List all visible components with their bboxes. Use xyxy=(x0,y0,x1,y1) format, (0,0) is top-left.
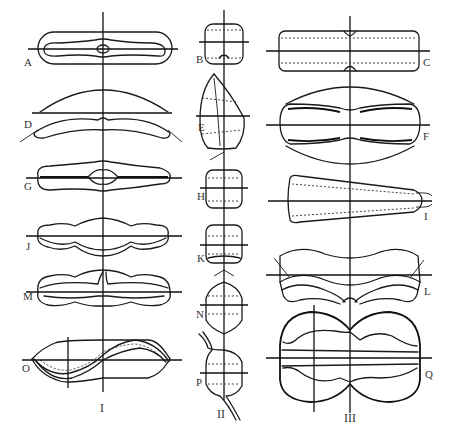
label-f: F xyxy=(423,130,429,142)
figure-e-mid xyxy=(214,78,220,146)
numeral-column-2: II xyxy=(217,407,225,421)
figure-o-sigmoid-1 xyxy=(34,340,168,374)
figure-d-arc xyxy=(40,90,168,112)
label-j: J xyxy=(26,240,31,252)
figure-e xyxy=(196,74,250,149)
label-a: A xyxy=(24,56,32,68)
figure-i-girdle xyxy=(292,184,414,216)
label-d: D xyxy=(24,118,32,130)
figure-n-connector-left xyxy=(214,270,224,276)
label-l: L xyxy=(424,285,431,297)
figure-d xyxy=(20,90,182,142)
figure-f xyxy=(266,87,430,164)
label-h: H xyxy=(197,190,205,202)
numeral-column-1: I xyxy=(100,401,104,415)
label-n: N xyxy=(196,308,204,320)
figure-n-connector-right xyxy=(224,270,234,276)
diatom-diagram: A D G J M O B E H K N P C F I L Q I II I… xyxy=(0,0,449,434)
figure-h-connector xyxy=(210,152,224,160)
figure-l xyxy=(266,249,432,304)
figure-i-outline xyxy=(288,175,422,222)
figure-g xyxy=(26,161,182,191)
figure-o-sigmoid-dotted xyxy=(40,344,164,370)
label-g: G xyxy=(24,180,32,192)
figure-a-outline xyxy=(38,32,172,64)
figure-d-body xyxy=(34,118,170,138)
label-p: P xyxy=(196,376,202,388)
numeral-column-3: III xyxy=(344,411,356,425)
figure-m-inner-bottom xyxy=(44,296,164,298)
figure-m xyxy=(26,270,182,306)
label-q: Q xyxy=(425,368,433,380)
figure-d-extension-right xyxy=(168,130,182,142)
figure-q xyxy=(266,305,432,412)
figure-o xyxy=(22,337,182,388)
label-o: O xyxy=(22,362,30,374)
label-i: I xyxy=(424,210,428,222)
figure-i-tip xyxy=(416,193,432,207)
figure-o-sigmoid-2 xyxy=(36,348,166,379)
label-e: E xyxy=(198,121,205,133)
label-c: C xyxy=(423,56,430,68)
label-b: B xyxy=(196,53,203,65)
figure-e-right xyxy=(208,74,244,149)
label-k: K xyxy=(197,252,205,264)
figure-m-outline xyxy=(38,270,171,306)
figure-e-left xyxy=(200,74,214,148)
label-m: M xyxy=(23,290,33,302)
figure-a-inner xyxy=(44,39,165,57)
figure-c xyxy=(266,31,430,71)
figure-g-outline xyxy=(38,161,171,191)
figure-j xyxy=(26,218,182,256)
